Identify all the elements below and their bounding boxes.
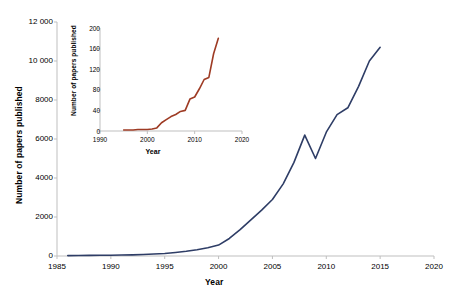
main-y-axis-title: Number of papers published <box>14 60 24 230</box>
x-tick-label: 2010 <box>178 136 212 143</box>
x-tick-label: 2010 <box>306 263 346 271</box>
x-tick-label: 2000 <box>130 136 164 143</box>
inset-x-axis-title: Year <box>113 148 193 155</box>
inset-x-tick-labels: 1990200020102020 <box>66 18 246 160</box>
main-x-axis-title: Year <box>205 277 223 287</box>
x-tick-label: 1990 <box>91 263 131 271</box>
x-tick-label: 2020 <box>414 263 453 271</box>
figure-container: 0200040006000800010 00012 000 1985199019… <box>0 0 453 295</box>
x-tick-label: 2000 <box>199 263 239 271</box>
inset-chart: 04080120160200 1990200020102020 Number o… <box>66 18 246 160</box>
x-tick-label: 2015 <box>360 263 400 271</box>
inset-y-axis-title: Number of papers published <box>70 22 77 120</box>
x-tick-label: 1995 <box>145 263 185 271</box>
x-tick-label: 2005 <box>252 263 292 271</box>
x-tick-label: 2020 <box>225 136 259 143</box>
x-tick-label: 1990 <box>83 136 117 143</box>
x-tick-label: 1985 <box>37 263 77 271</box>
